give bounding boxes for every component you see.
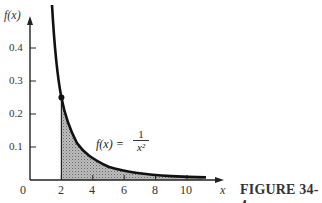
fraction-numerator: 1 [133,128,149,141]
y-axis-arrow [27,16,33,25]
fraction-denominator: x² [133,141,149,154]
chart-canvas [0,0,322,203]
function-fraction: 1 x² [133,128,149,154]
x-tick-8: 8 [152,183,158,198]
y-tick-0-3: 0.3 [9,74,23,86]
y-tick-0-2: 0.2 [9,107,23,119]
x-tick-10: 10 [180,183,192,198]
x-tick-6: 6 [121,183,127,198]
y-tick-0-4: 0.4 [9,41,23,53]
figure-caption: FIGURE 34-4 [240,182,322,203]
function-label: f(x) = [96,137,124,152]
y-tick-0-1: 0.1 [9,140,23,152]
x-axis-label: x [220,183,225,198]
x-tick-0: 0 [20,183,26,198]
x-tick-4: 4 [89,183,95,198]
x-tick-2: 2 [58,183,64,198]
highlighted-point [58,95,64,101]
y-axis-label: f(x) [4,8,21,23]
